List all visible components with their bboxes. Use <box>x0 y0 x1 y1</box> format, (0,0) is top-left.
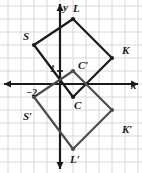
vertex-dot <box>71 69 75 73</box>
tick-label-minus-2: −2 <box>26 88 37 98</box>
vertex-dot <box>71 147 75 151</box>
vertex-label-C-prime: C′ <box>78 60 88 71</box>
vertex-label-S: S <box>23 31 29 42</box>
vertex-dot <box>110 56 114 60</box>
vertex-dot <box>110 108 114 112</box>
vertex-label-S-prime: S′ <box>23 111 32 122</box>
axis-label-x: x <box>131 80 137 91</box>
vertex-dot <box>32 43 36 47</box>
vertex-label-L: L <box>73 3 80 14</box>
geometry-plot-svg <box>0 0 142 173</box>
axis-label-y: y <box>63 2 68 13</box>
vertex-label-K: K <box>122 45 129 56</box>
vertex-label-C: C <box>74 100 81 111</box>
vertex-label-K-prime: K′ <box>122 124 132 135</box>
vertex-dot <box>71 17 75 21</box>
coordinate-plane-reflection-figure: LSKC′CS′K′L′yx1−2 <box>0 0 142 173</box>
vertex-label-L-prime: L′ <box>70 154 80 165</box>
tick-label-1: 1 <box>50 64 55 74</box>
